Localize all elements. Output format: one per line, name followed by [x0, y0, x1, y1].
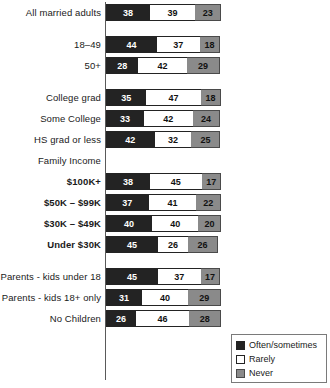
chart-row: No Children264628: [0, 308, 330, 329]
bar-segment-never: 22: [196, 194, 221, 211]
legend-item: Never: [236, 366, 322, 380]
bar-segment-never: 26: [188, 236, 218, 253]
stacked-bar: 423225: [106, 131, 220, 148]
bar-segment-often-sometimes: 45: [106, 268, 158, 285]
row-label: Family Income: [0, 150, 101, 171]
legend-item: Often/sometimes: [236, 338, 322, 352]
bar-segment-never: 18: [201, 89, 222, 106]
bar-segment-rarely: 42: [144, 110, 193, 127]
bar-segment-never: 29: [188, 289, 221, 306]
bar-segment-often-sometimes: 35: [106, 89, 146, 106]
bar-segment-often-sometimes: 33: [106, 110, 144, 127]
stacked-bar: 374122: [106, 194, 221, 211]
row-label: HS grad or less: [0, 129, 101, 150]
stacked-bar: 354718: [106, 89, 221, 106]
bar-segment-often-sometimes: 37: [106, 194, 149, 211]
bar-segment-never: 29: [187, 57, 220, 74]
legend-item: Rarely: [236, 352, 322, 366]
stacked-bar: 453717: [106, 268, 220, 285]
chart-row: HS grad or less423225: [0, 129, 330, 150]
stacked-bar: 314029: [106, 289, 221, 306]
row-label: $100K+: [0, 171, 101, 192]
bar-segment-never: 25: [191, 131, 220, 148]
chart-row: $50K – $99K374122: [0, 192, 330, 213]
chart-row: College grad354718: [0, 87, 330, 108]
row-label: No Children: [0, 308, 101, 329]
legend-label: Often/sometimes: [249, 340, 317, 350]
row-label: Under $30K: [0, 234, 101, 255]
stacked-bar: 284229: [106, 57, 220, 74]
bar-segment-often-sometimes: 44: [106, 36, 157, 53]
bar-segment-never: 20: [198, 215, 221, 232]
bar-segment-rarely: 40: [152, 215, 198, 232]
legend-swatch-icon: [236, 369, 245, 378]
chart-row: Some College334224: [0, 108, 330, 129]
legend-label: Rarely: [249, 354, 275, 364]
bar-segment-never: 18: [200, 36, 221, 53]
chart-row: $30K – $49K404020: [0, 213, 330, 234]
bar-segment-rarely: 46: [136, 310, 189, 327]
chart-row: Parents - kids under 18453717: [0, 266, 330, 287]
bar-segment-rarely: 39: [150, 4, 195, 21]
bar-segment-often-sometimes: 38: [106, 173, 150, 190]
stacked-bar: 383923: [106, 4, 221, 21]
stacked-bar: 443718: [106, 36, 220, 53]
bar-segment-rarely: 41: [149, 194, 196, 211]
legend-swatch-icon: [236, 355, 245, 364]
row-label: Parents - kids 18+ only: [0, 287, 101, 308]
bar-segment-rarely: 47: [146, 89, 200, 106]
bar-segment-often-sometimes: 42: [106, 131, 155, 148]
bar-segment-rarely: 37: [158, 268, 201, 285]
bar-segment-often-sometimes: 28: [106, 57, 138, 74]
row-label: College grad: [0, 87, 101, 108]
bar-segment-rarely: 45: [150, 173, 202, 190]
bar-segment-often-sometimes: 45: [106, 236, 158, 253]
chart-row: Parents - kids 18+ only314029: [0, 287, 330, 308]
bar-segment-often-sometimes: 31: [106, 289, 142, 306]
stacked-bar: 404020: [106, 215, 221, 232]
legend-label: Never: [249, 368, 273, 378]
row-label: 50+: [0, 55, 101, 76]
chart-group-header: Family Income: [0, 150, 330, 171]
bar-segment-often-sometimes: 40: [106, 215, 152, 232]
bar-segment-rarely: 32: [155, 131, 192, 148]
row-label: All married adults: [0, 2, 101, 23]
bar-segment-often-sometimes: 38: [106, 4, 150, 21]
legend-swatch-icon: [236, 341, 245, 350]
chart-row: 18–49443718: [0, 34, 330, 55]
bar-segment-rarely: 40: [142, 289, 188, 306]
row-label: Parents - kids under 18: [0, 266, 101, 287]
bar-segment-never: 17: [202, 173, 222, 190]
stacked-bar: 264628: [106, 310, 221, 327]
bar-segment-never: 23: [195, 4, 222, 21]
bar-segment-rarely: 37: [157, 36, 200, 53]
chart-legend: Often/sometimesRarelyNever: [231, 334, 327, 383]
stacked-bar: 334224: [106, 110, 220, 127]
row-label: $50K – $99K: [0, 192, 101, 213]
stacked-bar-chart: All married adults38392318–4944371850+28…: [0, 0, 330, 388]
bar-segment-often-sometimes: 26: [106, 310, 136, 327]
bar-segment-never: 24: [193, 110, 221, 127]
bar-segment-rarely: 42: [138, 57, 187, 74]
chart-row: Under $30K452626: [0, 234, 330, 255]
bar-segment-never: 17: [201, 268, 221, 285]
chart-row: All married adults383923: [0, 2, 330, 23]
row-label: 18–49: [0, 34, 101, 55]
stacked-bar: 384517: [106, 173, 221, 190]
chart-row: 50+284229: [0, 55, 330, 76]
row-label: $30K – $49K: [0, 213, 101, 234]
stacked-bar: 452626: [106, 236, 218, 253]
chart-row: $100K+384517: [0, 171, 330, 192]
row-label: Some College: [0, 108, 101, 129]
bar-segment-never: 28: [189, 310, 221, 327]
bar-segment-rarely: 26: [158, 236, 188, 253]
